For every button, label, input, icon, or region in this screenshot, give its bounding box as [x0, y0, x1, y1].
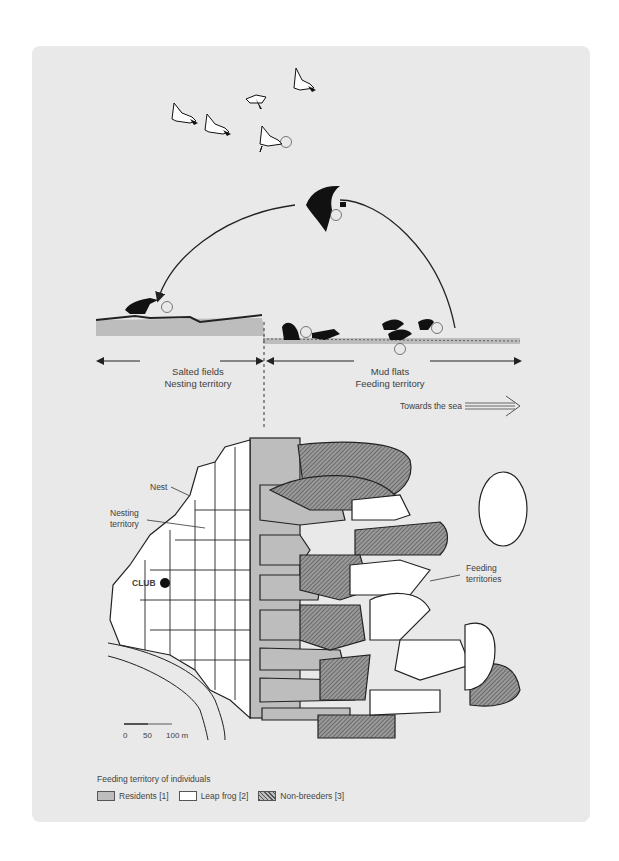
double-arrow-icon	[465, 396, 520, 416]
non-breeders-swatch-icon	[258, 791, 276, 801]
flying-bird-icon	[306, 186, 346, 232]
nesting-bird-icon	[125, 298, 173, 314]
feeding-birds-icon	[282, 319, 434, 340]
label-line: territory	[110, 519, 139, 530]
residents-swatch-icon	[97, 791, 115, 801]
leap-frog-swatch-icon	[179, 791, 197, 801]
feeding-territories-label: Feeding territories	[466, 563, 501, 585]
zone-purpose: Nesting territory	[148, 378, 248, 390]
badge-circle	[301, 327, 312, 338]
salted-fields-ground	[96, 318, 265, 336]
mud-flats-label: Mud flats Feeding territory	[340, 366, 440, 390]
club-marker-icon	[160, 578, 170, 588]
zone-name: Salted fields	[148, 366, 248, 378]
legend-title: Feeding territory of individuals	[97, 774, 210, 784]
nesting-territory-label: Nesting territory	[110, 508, 139, 530]
label-line: Feeding	[466, 563, 501, 574]
scale-tick-50: 50	[143, 730, 152, 742]
return-arc	[340, 200, 455, 328]
legend-item-non-breeders: Non-breeders [3]	[258, 791, 344, 801]
legend-item-leap-frog: Leap frog [2]	[179, 791, 249, 801]
salted-fields-label: Salted fields Nesting territory	[148, 366, 248, 390]
legend-label: Residents [1]	[119, 791, 169, 801]
nest-label: Nest	[150, 481, 167, 493]
diagram-canvas	[0, 0, 619, 861]
towards-sea-label: Towards the sea	[400, 400, 462, 412]
outgoing-arc	[158, 205, 295, 300]
legend-label: Leap frog [2]	[201, 791, 249, 801]
scale-tick-100: 100 m	[166, 730, 188, 742]
badge-circle	[395, 344, 406, 355]
territory-map	[108, 438, 527, 740]
flock-of-birds-icon	[172, 68, 316, 152]
club-label: CLUB	[132, 577, 156, 589]
legend-item-residents: Residents [1]	[97, 791, 169, 801]
legend-label: Non-breeders [3]	[280, 791, 344, 801]
zone-purpose: Feeding territory	[340, 378, 440, 390]
badge-circle	[432, 323, 443, 334]
label-line: Nesting	[110, 508, 139, 519]
scale-tick-0: 0	[123, 730, 127, 742]
label-line: territories	[466, 574, 501, 585]
legend: Residents [1] Leap frog [2] Non-breeders…	[97, 791, 344, 801]
badge-circle	[281, 137, 292, 148]
zone-name: Mud flats	[340, 366, 440, 378]
